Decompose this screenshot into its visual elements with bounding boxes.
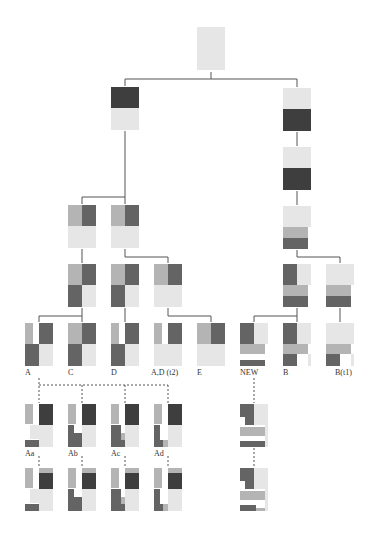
- tree-node-l1: [111, 87, 139, 130]
- block-dark: [111, 285, 125, 307]
- connector-line: [254, 308, 340, 322]
- label-Ad: Ad: [154, 450, 164, 458]
- block-dark: [125, 323, 139, 344]
- block-light: [82, 285, 96, 307]
- block-darkest: [39, 404, 53, 425]
- block-light: [326, 323, 354, 344]
- block-light: [308, 354, 311, 366]
- block-light: [82, 344, 96, 366]
- block-dark: [240, 323, 254, 344]
- tree-node-r2: [283, 147, 311, 190]
- block-medium: [25, 404, 33, 424]
- block-light: [82, 489, 96, 511]
- block-darkest: [168, 404, 182, 425]
- dashed-connector-line: [39, 378, 168, 403]
- tree-node-ad2: [154, 468, 182, 511]
- block-dark: [245, 417, 254, 425]
- block-light: [39, 489, 53, 511]
- tree-node-l4a: [68, 264, 96, 307]
- block-dark: [154, 489, 160, 504]
- label-D: D: [111, 369, 117, 377]
- tree-node-ad_t2: [154, 323, 182, 366]
- block-dark: [240, 505, 256, 511]
- block-dark: [111, 440, 125, 447]
- block-dark: [283, 264, 297, 285]
- connector-line: [82, 131, 125, 204]
- block-medium: [111, 205, 125, 226]
- block-dark: [240, 468, 254, 481]
- block-dark: [240, 441, 265, 447]
- block-medium: [68, 404, 76, 424]
- label-Aa: Aa: [25, 450, 34, 458]
- block-medium: [154, 264, 168, 285]
- block-light: [125, 344, 139, 366]
- tree-node-b: [283, 323, 311, 366]
- tree-node-ac: [111, 404, 139, 447]
- block-dark: [39, 323, 53, 344]
- block-dark: [245, 481, 254, 489]
- block-light: [111, 108, 139, 130]
- block-medium: [68, 323, 82, 344]
- block-medium: [283, 344, 308, 354]
- block-light: [168, 425, 182, 447]
- block-medium: [111, 323, 119, 344]
- block-medium: [25, 468, 33, 488]
- block-darkest: [125, 473, 139, 489]
- block-light: [283, 147, 311, 168]
- block-light: [265, 489, 268, 511]
- block-dark: [25, 440, 39, 447]
- block-dark: [283, 354, 297, 366]
- connector-line: [125, 72, 297, 87]
- tree-node-ac2: [111, 468, 139, 511]
- label-E: E: [197, 369, 202, 377]
- connector-lines: [0, 0, 378, 536]
- tree-node-d: [111, 323, 139, 366]
- block-medium: [326, 285, 351, 296]
- block-medium: [25, 323, 33, 344]
- block-medium: [326, 344, 351, 354]
- block-medium: [154, 468, 162, 488]
- block-light: [125, 285, 139, 307]
- block-darkest: [82, 404, 96, 425]
- tree-node-new: [240, 323, 268, 366]
- tree-node-c: [68, 323, 96, 366]
- block-medium: [163, 440, 168, 447]
- block-medium: [283, 227, 308, 238]
- block-medium: [111, 264, 125, 285]
- block-dark: [168, 323, 182, 344]
- tree-node-ab2: [68, 468, 96, 511]
- label-Ab: Ab: [68, 450, 78, 458]
- block-darkest: [39, 473, 53, 489]
- block-dark: [68, 504, 82, 511]
- block-dark: [154, 425, 160, 440]
- block-light: [351, 354, 354, 366]
- tree-node-ad: [154, 404, 182, 447]
- block-dark: [111, 425, 121, 440]
- tree-node-a: [25, 323, 53, 366]
- connector-line: [82, 249, 168, 263]
- block-light: [82, 425, 96, 447]
- block-dark: [283, 238, 308, 249]
- block-light: [111, 226, 139, 248]
- block-medium: [154, 404, 162, 424]
- block-medium: [111, 404, 119, 424]
- block-light: [254, 468, 268, 489]
- block-medium: [283, 285, 308, 296]
- block-dark: [111, 489, 121, 504]
- block-dark: [211, 323, 225, 344]
- block-dark: [125, 264, 139, 285]
- block-dark: [25, 504, 39, 511]
- block-dark: [326, 296, 351, 307]
- block-medium: [240, 491, 265, 500]
- block-darkest: [283, 109, 311, 131]
- block-dark: [25, 344, 39, 366]
- block-darkest: [125, 404, 139, 425]
- tree-node-aa2: [25, 468, 53, 511]
- block-light: [197, 344, 225, 366]
- block-light: [197, 27, 225, 70]
- tree-node-r3: [283, 206, 311, 249]
- block-medium: [111, 468, 119, 488]
- block-light: [254, 404, 268, 425]
- block-darkest: [168, 473, 182, 489]
- block-dark: [283, 323, 297, 344]
